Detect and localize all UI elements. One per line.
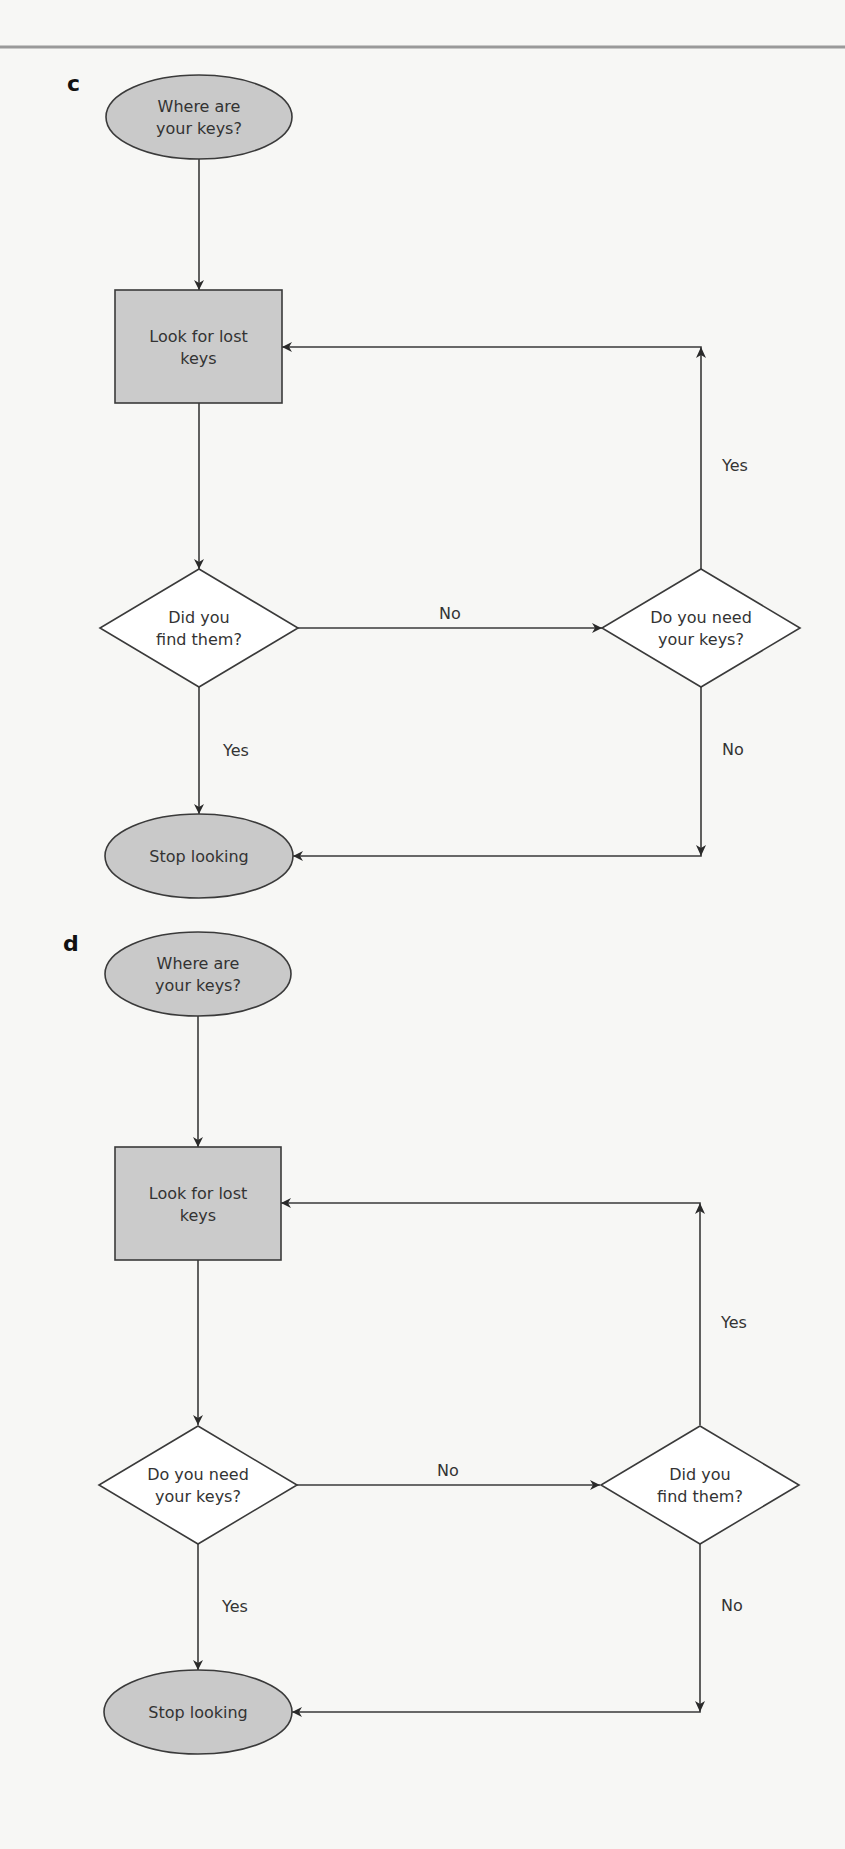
node-label: Stop looking [149, 847, 249, 866]
flowchart-panel-c: cNoYesYesNoWhere areyour keys?Look for l… [67, 71, 800, 898]
edge-label-no: No [437, 1461, 459, 1480]
flow-arrow: Yes [281, 1203, 747, 1425]
process-shape [115, 290, 282, 403]
flowchart-panels: cNoYesYesNoWhere areyour keys?Look for l… [63, 71, 800, 1754]
node-label: Stop looking [148, 1703, 248, 1722]
edge-label-no: No [722, 740, 744, 759]
node-decision-q2: Did youfind them? [601, 1426, 799, 1544]
node-decision-q1: Did youfind them? [100, 569, 298, 687]
panel-label: d [63, 931, 79, 956]
node-label: Did you [669, 1465, 730, 1484]
decision-shape [602, 569, 800, 687]
node-process-look: Look for lostkeys [115, 1147, 281, 1260]
node-label: your keys? [155, 976, 241, 995]
node-label: Did you [168, 608, 229, 627]
flow-arrow: Yes [282, 347, 748, 569]
flow-arrow: No [292, 1544, 743, 1712]
node-terminal-start: Where areyour keys? [105, 932, 291, 1016]
arrow-line [293, 687, 701, 856]
edge-label-no: No [439, 604, 461, 623]
node-label: Do you need [147, 1465, 249, 1484]
node-label: your keys? [658, 630, 744, 649]
terminal-shape [106, 75, 292, 159]
flow-arrow: No [297, 604, 602, 628]
node-terminal-stop: Stop looking [105, 814, 293, 898]
decision-shape [601, 1426, 799, 1544]
arrow-line [292, 1544, 700, 1712]
flowchart-canvas: cNoYesYesNoWhere areyour keys?Look for l… [0, 0, 845, 1849]
node-process-look: Look for lostkeys [115, 290, 282, 403]
node-label: keys [180, 1206, 216, 1225]
node-label: Where are [157, 954, 240, 973]
flow-arrow: Yes [199, 687, 249, 814]
edge-label-yes: Yes [721, 456, 748, 475]
node-terminal-start: Where areyour keys? [106, 75, 292, 159]
node-label: keys [180, 349, 216, 368]
arrow-line [282, 347, 701, 569]
flow-arrow: Yes [198, 1544, 248, 1670]
node-label: find them? [657, 1487, 743, 1506]
node-label: your keys? [156, 119, 242, 138]
edge-label-yes: Yes [221, 1597, 248, 1616]
panel-label: c [67, 71, 80, 96]
node-decision-q2: Do you needyour keys? [602, 569, 800, 687]
edge-label-no: No [721, 1596, 743, 1615]
node-label: find them? [156, 630, 242, 649]
node-label: Look for lost [149, 327, 248, 346]
terminal-shape [105, 932, 291, 1016]
arrow-line [281, 1203, 700, 1425]
node-label: Where are [158, 97, 241, 116]
node-label: Do you need [650, 608, 752, 627]
decision-shape [100, 569, 298, 687]
node-label: your keys? [155, 1487, 241, 1506]
node-decision-q1: Do you needyour keys? [99, 1426, 297, 1544]
edge-label-yes: Yes [222, 741, 249, 760]
decision-shape [99, 1426, 297, 1544]
node-label: Look for lost [149, 1184, 248, 1203]
process-shape [115, 1147, 281, 1260]
node-terminal-stop: Stop looking [104, 1670, 292, 1754]
flowchart-panel-d: dNoYesYesNoWhere areyour keys?Look for l… [63, 931, 799, 1754]
flow-arrow: No [293, 687, 744, 856]
edge-label-yes: Yes [720, 1313, 747, 1332]
flow-arrow: No [296, 1461, 600, 1485]
